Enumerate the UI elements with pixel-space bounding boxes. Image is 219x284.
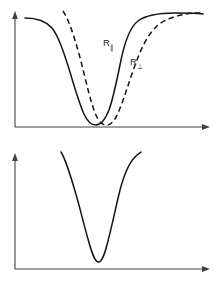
x-axis-arrow-top bbox=[202, 124, 210, 130]
curve-label-subscript: ∥ bbox=[110, 44, 114, 51]
figure-container: R∥ R⊥ R0 bbox=[0, 0, 219, 284]
chart-panel-bottom: R0 bbox=[0, 142, 219, 284]
curve-label-r-parallel: R∥ bbox=[103, 38, 114, 50]
chart-panel-top: R∥ R⊥ bbox=[0, 0, 219, 142]
x-axis-arrow-bottom bbox=[202, 266, 210, 272]
curve-label-r-perpendicular: R⊥ bbox=[130, 57, 143, 69]
chart-svg-bottom bbox=[0, 142, 219, 284]
curve-label-base: R bbox=[130, 56, 137, 67]
curve-r-zero bbox=[61, 152, 141, 262]
curve-r-parallel bbox=[25, 13, 203, 125]
curve-label-subscript: ⊥ bbox=[137, 63, 143, 70]
y-axis-arrow-top bbox=[12, 11, 18, 19]
y-axis-arrow-bottom bbox=[12, 153, 18, 161]
chart-svg-top bbox=[0, 0, 219, 142]
curve-label-base: R bbox=[103, 37, 110, 48]
